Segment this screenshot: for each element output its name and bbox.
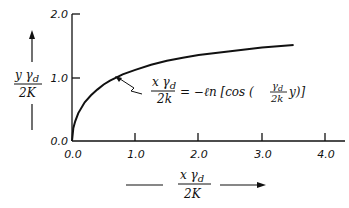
y-axis-label: y γd 2K xyxy=(14,30,42,130)
x-tick-labels: 0.0 1.0 2.0 3.0 4.0 xyxy=(64,148,335,161)
y-tick-1: 1.0 xyxy=(51,72,69,85)
chart: 2.0 1.0 0.0 0.0 1.0 2.0 3.0 4.0 x γd 2k … xyxy=(0,0,349,208)
y-tick-2: 2.0 xyxy=(51,8,69,21)
y-tick-0: 0.0 xyxy=(51,135,69,148)
svg-text:y)]: y)] xyxy=(288,85,305,99)
axes xyxy=(72,14,345,141)
svg-text:= −ℓn [cos (: = −ℓn [cos ( xyxy=(180,85,254,99)
x-tick-0: 0.0 xyxy=(64,148,82,161)
svg-text:2K: 2K xyxy=(18,86,37,100)
svg-text:2K: 2K xyxy=(183,187,202,201)
equation-annotation: x γd 2k = −ℓn [cos ( γd 2k y)] xyxy=(151,75,305,106)
x-axis-label: x γd 2K xyxy=(126,168,266,201)
x-tick-4: 4.0 xyxy=(317,148,335,161)
svg-text:x γd: x γd xyxy=(152,75,176,91)
x-tick-2: 2.0 xyxy=(190,148,208,161)
y-tick-labels: 2.0 1.0 0.0 xyxy=(51,8,69,148)
svg-text:2k: 2k xyxy=(270,93,283,104)
svg-text:y γd: y γd xyxy=(14,68,39,84)
svg-text:γd: γd xyxy=(272,80,283,93)
x-tick-1: 1.0 xyxy=(127,148,145,161)
x-tick-3: 3.0 xyxy=(254,148,272,161)
svg-text:2k: 2k xyxy=(156,92,172,106)
svg-text:x γd: x γd xyxy=(180,168,204,184)
